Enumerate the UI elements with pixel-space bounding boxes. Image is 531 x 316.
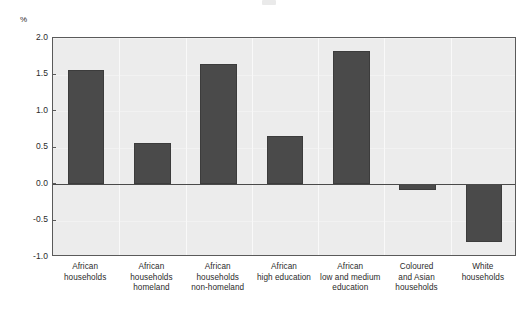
x-category-label-line: African: [317, 262, 383, 273]
vertical-gridline: [186, 38, 187, 255]
x-category-label-line: homeland: [118, 283, 184, 294]
x-category-label: Africanlow and mediumeducation: [317, 262, 383, 294]
vertical-gridline: [451, 38, 452, 255]
vertical-gridline: [252, 38, 253, 255]
x-category-label-line: African: [185, 262, 251, 273]
x-category-label-line: households: [383, 283, 449, 294]
x-category-label: Africanhigh education: [251, 262, 317, 283]
x-category-label-line: African: [251, 262, 317, 273]
x-category-label-line: households: [118, 273, 184, 284]
x-category-label-line: high education: [251, 273, 317, 284]
y-axis-tick-labels: 2.01.51.00.50.0-0.5-1.0: [14, 0, 48, 316]
chart-figure: % 2.01.51.00.50.0-0.5-1.0 Africanhouseho…: [0, 0, 531, 316]
vertical-gridline: [384, 38, 385, 255]
bar: [466, 184, 502, 242]
x-category-label-line: Coloured: [383, 262, 449, 273]
y-tick-label: 1.0: [18, 106, 48, 115]
horizontal-gridline: [53, 221, 515, 222]
x-category-label-line: households: [450, 273, 516, 284]
x-category-label: Africanhouseholdshomeland: [118, 262, 184, 294]
x-category-label-line: African: [118, 262, 184, 273]
y-tick-mark: [52, 220, 56, 221]
horizontal-gridline: [53, 38, 515, 39]
y-tick-label: 0.0: [18, 179, 48, 188]
bar: [267, 136, 303, 184]
x-category-label: Colouredand Asianhouseholds: [383, 262, 449, 294]
x-category-label-line: African: [52, 262, 118, 273]
x-category-label-line: households: [185, 273, 251, 284]
x-category-label: Africanhouseholds: [52, 262, 118, 283]
bar: [333, 51, 369, 184]
bar: [200, 64, 236, 184]
y-tick-mark: [52, 74, 56, 75]
y-tick-label: -0.5: [18, 215, 48, 224]
x-axis-category-labels: AfricanhouseholdsAfricanhouseholdshomela…: [52, 262, 516, 314]
x-category-label-line: non-homeland: [185, 283, 251, 294]
y-tick-label: -1.0: [18, 252, 48, 261]
y-tick-mark: [52, 183, 56, 184]
x-category-label: Whitehouseholds: [450, 262, 516, 283]
horizontal-gridline: [53, 75, 515, 76]
plot-area: [52, 37, 516, 256]
x-category-label-line: low and medium: [317, 273, 383, 284]
bar: [68, 70, 104, 184]
x-category-label-line: households: [52, 273, 118, 284]
y-tick-label: 1.5: [18, 69, 48, 78]
y-tick-label: 0.5: [18, 142, 48, 151]
x-category-label-line: education: [317, 283, 383, 294]
zero-baseline: [53, 184, 515, 185]
vertical-gridline: [119, 38, 120, 255]
vertical-gridline: [318, 38, 319, 255]
y-tick-mark: [52, 110, 56, 111]
x-category-label-line: and Asian: [383, 273, 449, 284]
y-tick-mark: [52, 147, 56, 148]
bar: [134, 143, 170, 184]
x-category-label-line: White: [450, 262, 516, 273]
scan-artifact: [262, 0, 276, 5]
horizontal-gridline: [53, 111, 515, 112]
y-tick-label: 2.0: [18, 33, 48, 42]
x-category-label: Africanhouseholdsnon-homeland: [185, 262, 251, 294]
